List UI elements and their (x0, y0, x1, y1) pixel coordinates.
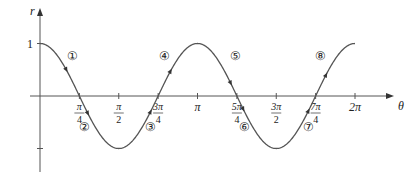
x-tick-denominator: 2 (116, 114, 121, 125)
y-axis-arrow-icon (37, 8, 43, 16)
x-tick-denominator: 2 (274, 114, 279, 125)
x-tick-numerator: 3π (152, 101, 164, 112)
segment-number-label: ① (67, 49, 78, 63)
x-tick-numerator: π (116, 101, 122, 112)
polar-rectangular-graph: r θ 1 π4π23π4π5π43π27π42π ①②③④⑤⑥⑦⑧ (0, 0, 410, 176)
y-tick-label: 1 (27, 37, 33, 51)
y-axis-label: r (30, 4, 35, 18)
x-tick-denominator: 4 (313, 114, 318, 125)
x-axis-label: θ (398, 99, 404, 113)
segment-number-label: ⑤ (230, 49, 241, 63)
direction-arrow-icon (167, 68, 173, 74)
x-tick-label: π (194, 100, 201, 114)
segment-number-label: ④ (159, 49, 170, 63)
x-tick-numerator: 3π (270, 101, 282, 112)
y-ticks: 1 (27, 37, 43, 149)
x-ticks: π4π23π4π5π43π27π42π (74, 93, 362, 125)
segment-annotations: ①②③④⑤⑥⑦⑧ (67, 49, 326, 134)
axes: r θ (30, 4, 404, 172)
segment-number-label: ③ (145, 120, 156, 134)
x-tick-denominator: 4 (156, 114, 161, 125)
x-tick-label: 2π (349, 100, 362, 114)
x-axis-arrow-icon (386, 93, 394, 99)
segment-number-label: ⑦ (303, 120, 314, 134)
segment-number-label: ② (79, 120, 90, 134)
segment-number-label: ⑧ (315, 49, 326, 63)
direction-arrow-icon (85, 110, 91, 116)
direction-arrow-icon (323, 72, 329, 78)
direction-arrow-icon (63, 67, 69, 74)
segment-number-label: ⑥ (239, 120, 250, 134)
direction-arrow-icon (228, 80, 234, 86)
